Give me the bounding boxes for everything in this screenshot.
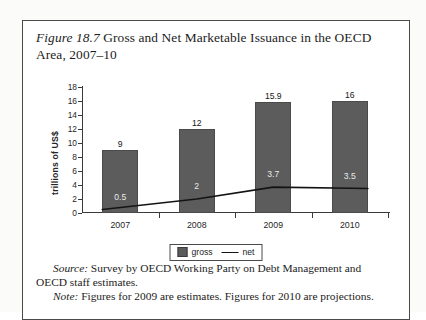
bar-gross-2009: 15.9 [255,102,291,213]
x-category-label-2008: 2008 [187,220,207,230]
y-tick-label: 10 [68,138,77,148]
y-tick-mark [78,143,82,144]
x-tick-mark [235,213,236,218]
y-tick-mark [78,115,82,116]
y-tick-mark [78,199,82,200]
x-tick-mark [388,213,389,218]
y-tick-label: 12 [68,124,77,134]
legend-swatch-icon [178,247,188,257]
y-tick-label: 18 [68,82,77,92]
bar-value-label: 9 [118,139,123,149]
note-lead-label: Note: [53,290,78,302]
y-tick-mark [78,101,82,102]
note-text: Figures for 2009 are estimates. Figures … [78,290,373,302]
figure-note-line: Note: Figures for 2009 are estimates. Fi… [36,289,394,303]
legend-entry-gross: gross [178,247,213,257]
y-tick-mark [78,87,82,88]
net-value-label-2007: 0.5 [114,192,126,202]
y-tick-label: 6 [72,166,77,176]
figure-number-label: Figure 18.7 [36,30,100,45]
plot-area: 024681012141618 91215.916 0.523.73.5 200… [82,87,388,213]
y-tick-mark [78,213,82,214]
bar-gross-2008: 12 [179,129,215,213]
figure-frame: Figure 18.7 Gross and Net Marketable Iss… [22,20,410,320]
legend-label-net: net [243,247,255,257]
legend-line-icon [222,252,239,253]
net-line-path [102,187,368,209]
y-tick-label: 14 [68,110,77,120]
bar-gross-2010: 16 [332,101,368,213]
y-tick-label: 16 [68,96,77,106]
bar-gross-2007: 9 [102,150,138,213]
figure-caption-title: Figure 18.7 Gross and Net Marketable Iss… [36,29,388,63]
legend-entry-net: net [222,247,255,257]
y-tick-mark [78,129,82,130]
chart-legend: gross net [170,244,263,261]
legend-label-gross: gross [192,247,213,257]
y-axis-line [82,86,83,213]
y-tick-mark [78,171,82,172]
bar-value-label: 16 [345,90,355,100]
y-tick-label: 2 [72,194,77,204]
y-tick-mark [78,157,82,158]
bar-value-label: 15.9 [265,91,282,101]
source-lead-label: Source: [53,262,88,274]
net-value-label-2009: 3.7 [267,169,279,179]
x-category-label-2007: 2007 [110,220,130,230]
bar-value-label: 12 [192,118,202,128]
y-tick-label: 8 [72,152,77,162]
y-axis-title: trillions of US$ [50,19,60,115]
figure-notes: Source: Survey by OECD Working Party on … [36,261,394,304]
x-tick-mark [312,213,313,218]
y-tick-mark [78,185,82,186]
chart-container: trillions of US$ 024681012141618 91215.9… [36,79,396,259]
net-value-label-2008: 2 [194,181,199,191]
y-axis-title-text: trillions of US$ [50,115,60,211]
x-category-label-2009: 2009 [263,220,283,230]
y-tick-label: 0 [72,208,77,218]
net-value-label-2010: 3.5 [344,171,356,181]
x-tick-mark [159,213,160,218]
figure-source-line: Source: Survey by OECD Working Party on … [36,261,394,289]
y-tick-label: 4 [72,180,77,190]
x-category-label-2010: 2010 [340,220,360,230]
